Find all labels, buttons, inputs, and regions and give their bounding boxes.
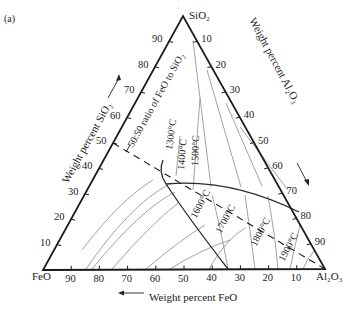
right-tick <box>250 143 254 144</box>
right-tick-label: 10 <box>201 33 212 44</box>
left-tick-label: 10 <box>40 237 51 248</box>
right-tick <box>207 67 211 68</box>
left-tick-label: 90 <box>152 33 163 44</box>
right-tick-label: 70 <box>286 185 297 196</box>
right-tick-label: 90 <box>315 236 326 247</box>
bottom-tick-labels: 908070605040302010 <box>65 272 301 284</box>
ratio-line <box>113 143 325 269</box>
isotherm-label-1500: 1500°C <box>189 135 201 166</box>
left-tick-label: 80 <box>138 59 149 70</box>
ratio-dashed-line <box>113 143 325 269</box>
left-tick <box>169 41 173 42</box>
left-tick-label: 40 <box>82 160 93 171</box>
right-tick-label: 40 <box>244 109 255 120</box>
right-axis-arrow-icon <box>297 163 309 186</box>
isotherm-label-1900: 1900°C <box>276 230 300 263</box>
right-tick-label: 60 <box>272 160 283 171</box>
bottom-tick-label: 60 <box>150 273 161 284</box>
vertex-al2o3-label: Al₂O₃ <box>316 270 343 282</box>
left-tick <box>155 67 159 68</box>
bottom-tick-label: 30 <box>234 272 245 283</box>
right-tick <box>293 218 297 219</box>
bottom-axis-arrow-icon <box>118 291 144 296</box>
bottom-tick-label: 40 <box>206 272 217 283</box>
right-tick <box>264 168 268 169</box>
isotherm-label-1600: 1600°C <box>188 187 212 220</box>
left-tick <box>127 118 131 119</box>
left-tick <box>85 194 89 195</box>
isotherm-label-1700: 1700°C <box>213 202 237 235</box>
right-tick <box>222 92 226 93</box>
panel-label: (a) <box>4 13 15 25</box>
isotherm-curve <box>92 192 175 269</box>
isotherm-curve <box>146 225 205 269</box>
bottom-axis-title: Weight percent FeO <box>149 291 237 303</box>
left-tick <box>57 245 61 246</box>
right-tick-labels: 102030405060708090 <box>201 33 325 246</box>
bottom-tick-label: 50 <box>178 273 189 284</box>
right-tick <box>278 193 282 194</box>
left-tick <box>99 168 103 169</box>
right-tick <box>193 41 197 42</box>
bottom-tick-label: 80 <box>93 273 104 284</box>
left-tick-labels: 102030405060708090 <box>40 33 163 247</box>
bottom-tick-label: 90 <box>65 273 76 284</box>
left-tick-label: 20 <box>54 211 65 222</box>
left-tick-label: 60 <box>110 110 121 121</box>
right-tick <box>307 244 311 245</box>
bottom-tick-label: 70 <box>122 273 133 284</box>
left-tick-label: 70 <box>124 84 135 95</box>
right-tick-label: 50 <box>258 135 269 146</box>
left-tick-label: 30 <box>68 186 79 197</box>
left-tick <box>141 92 145 93</box>
isotherm-label-1400: 1400°C <box>175 138 189 170</box>
vertex-feo-label: FeO <box>32 270 51 282</box>
isotherm-curve <box>86 185 168 269</box>
right-tick <box>236 117 240 118</box>
right-tick-label: 80 <box>301 210 312 221</box>
isotherm-curve <box>170 240 230 269</box>
left-axis-arrow-icon <box>108 74 121 98</box>
bottom-tick-label: 20 <box>263 272 274 283</box>
right-axis-title: Weight percent Al₂O₃ <box>247 15 302 105</box>
isotherm-label-1300: 1300°C <box>163 118 178 150</box>
bottom-tick-label: 10 <box>291 272 302 283</box>
isotherm-label-1800: 1800°C <box>248 215 272 248</box>
left-tick-label: 50 <box>96 135 107 146</box>
left-tick <box>71 219 75 220</box>
vertex-sio2-label: SiO₂ <box>189 9 210 21</box>
right-tick-label: 20 <box>215 59 226 70</box>
phase-boundary-curve <box>161 160 166 184</box>
right-tick-label: 30 <box>230 84 241 95</box>
ternary-phase-diagram: (a) SiO₂ FeO Al₂O₃ 102030405060708090 10… <box>0 0 356 312</box>
